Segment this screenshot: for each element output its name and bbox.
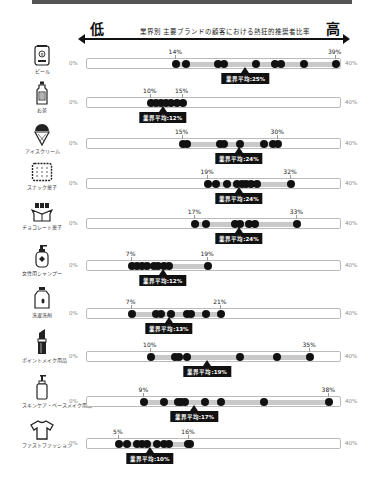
max-tick bbox=[182, 94, 183, 98]
brand-dot bbox=[157, 310, 165, 318]
range-track bbox=[86, 97, 341, 108]
category-label: お茶 bbox=[22, 106, 62, 113]
brand-dot bbox=[187, 310, 195, 318]
range-track bbox=[86, 438, 341, 449]
brand-dot bbox=[147, 353, 155, 361]
brand-dot bbox=[273, 353, 281, 361]
industry-average-label: 業界平均:24% bbox=[215, 153, 262, 164]
min-tick bbox=[131, 305, 132, 309]
min-tick bbox=[175, 55, 176, 59]
max-value-label: 39% bbox=[328, 48, 341, 55]
industry-average-label: 業界平均:10% bbox=[126, 453, 173, 464]
range-track bbox=[86, 308, 341, 319]
range-bar bbox=[144, 400, 329, 405]
range-track bbox=[86, 351, 341, 362]
max-tick bbox=[328, 393, 329, 397]
range-track bbox=[86, 218, 341, 229]
ice-cream-icon bbox=[22, 122, 62, 146]
min-tick bbox=[182, 135, 183, 139]
min-value-label: 5% bbox=[113, 428, 123, 435]
max-value-label: 38% bbox=[322, 386, 335, 393]
category-row: ファストファッション 0%40% 5%16%業界平均:10% bbox=[0, 432, 377, 472]
category-icon-group: スキンケア・ベースメイク用品 bbox=[22, 374, 62, 408]
min-tick bbox=[143, 393, 144, 397]
direction-axis bbox=[78, 34, 350, 44]
brand-dot bbox=[165, 440, 173, 448]
max-value-label: 30% bbox=[271, 128, 284, 135]
category-label: 洗濯洗剤 bbox=[22, 311, 62, 318]
cracker-icon bbox=[22, 162, 62, 182]
range-track bbox=[86, 178, 341, 189]
range-track bbox=[86, 260, 341, 271]
scale-min-label: 0% bbox=[69, 99, 78, 105]
category-icon-group: 洗濯洗剤 bbox=[22, 286, 62, 318]
brand-dot bbox=[293, 220, 301, 228]
pump-bottle-icon bbox=[22, 374, 62, 400]
detergent-icon bbox=[22, 286, 62, 310]
top-banner-bar bbox=[32, 0, 352, 4]
category-icon-group: スナック菓子 bbox=[22, 162, 62, 190]
brand-dot bbox=[253, 180, 261, 188]
min-value-label: 7% bbox=[126, 250, 136, 257]
scale-max-label: 40% bbox=[345, 440, 357, 446]
min-tick bbox=[150, 348, 151, 352]
max-tick bbox=[188, 435, 189, 439]
brand-dot bbox=[191, 220, 199, 228]
scale-min-label: 0% bbox=[69, 262, 78, 268]
brand-dot bbox=[182, 60, 190, 68]
max-value-label: 16% bbox=[181, 428, 194, 435]
scale-max-label: 40% bbox=[345, 180, 357, 186]
min-value-label: 10% bbox=[143, 87, 156, 94]
scale-max-label: 40% bbox=[345, 398, 357, 404]
category-icon-group: チョコレート菓子 bbox=[22, 202, 62, 230]
scale-max-label: 40% bbox=[345, 99, 357, 105]
range-track bbox=[86, 396, 341, 407]
brand-dot bbox=[160, 398, 168, 406]
max-value-label: 21% bbox=[213, 298, 226, 305]
brand-dot bbox=[274, 140, 282, 148]
scale-min-label: 0% bbox=[69, 60, 78, 66]
min-value-label: 19% bbox=[200, 168, 213, 175]
range-track bbox=[86, 138, 341, 149]
brand-dot bbox=[115, 440, 123, 448]
brand-dot bbox=[287, 180, 295, 188]
max-value-label: 33% bbox=[290, 208, 303, 215]
brand-dot bbox=[183, 353, 191, 361]
max-tick bbox=[220, 305, 221, 309]
brand-dot bbox=[181, 398, 189, 406]
industry-average-label: 業界平均:12% bbox=[139, 112, 186, 123]
brand-dot bbox=[220, 140, 228, 148]
brand-dot bbox=[236, 353, 244, 361]
max-tick bbox=[335, 55, 336, 59]
brand-dot bbox=[306, 353, 314, 361]
svg-text:B: B bbox=[41, 52, 44, 57]
category-label: スキンケア・ベースメイク用品 bbox=[22, 401, 62, 408]
industry-average-label: 業界平均:13% bbox=[145, 323, 192, 334]
max-value-label: 35% bbox=[302, 341, 315, 348]
min-value-label: 9% bbox=[139, 386, 149, 393]
scale-min-label: 0% bbox=[69, 180, 78, 186]
range-track bbox=[86, 58, 341, 69]
max-tick bbox=[290, 175, 291, 179]
lipstick-icon bbox=[22, 329, 62, 355]
brand-dot bbox=[220, 60, 228, 68]
scale-max-label: 40% bbox=[345, 310, 357, 316]
brand-dot bbox=[202, 220, 210, 228]
arrow-right-icon bbox=[343, 34, 350, 44]
max-value-label: 19% bbox=[200, 250, 213, 257]
max-tick bbox=[309, 348, 310, 352]
brand-dot bbox=[128, 310, 136, 318]
category-label: 女性用シャンプー bbox=[22, 269, 62, 276]
scale-min-label: 0% bbox=[69, 353, 78, 359]
scale-max-label: 40% bbox=[345, 220, 357, 226]
category-icon-group: ファストファッション bbox=[22, 420, 62, 448]
category-label: ポイントメイク用品 bbox=[22, 356, 62, 363]
max-value-label: 15% bbox=[175, 87, 188, 94]
category-icon-group: お茶 bbox=[22, 81, 62, 113]
min-value-label: 15% bbox=[175, 128, 188, 135]
brand-dot bbox=[325, 398, 333, 406]
max-tick bbox=[207, 257, 208, 261]
scale-min-label: 0% bbox=[69, 140, 78, 146]
tea-bottle-icon bbox=[22, 81, 62, 105]
tshirt-icon bbox=[22, 420, 62, 440]
